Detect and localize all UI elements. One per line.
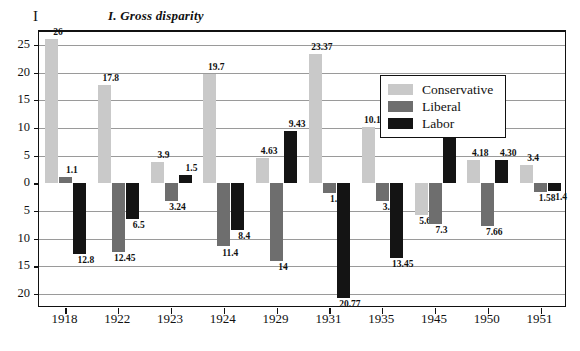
legend-swatch-liberal [388,101,413,112]
bar-liberal-1929 [270,183,283,261]
bar-value-label: 13.45 [383,259,423,269]
zero-axis-line [39,31,565,32]
y-axis-tick-label: 10 [0,230,30,245]
bar-conservative-1929 [256,158,269,184]
bar-conservative-1935 [362,127,375,183]
x-axis-label-1918: 1918 [34,311,94,327]
gridline [39,294,565,295]
bar-value-label: 4.63 [249,146,289,156]
x-axis-label-1935: 1935 [351,311,411,327]
bar-conservative-1950 [467,160,480,183]
bar-value-label: 1.8 [316,194,356,204]
legend-label-labor: Labor [422,117,454,131]
x-axis-label-1945: 1945 [404,311,464,327]
bar-conservative-1923 [151,162,164,184]
bar-conservative-1918 [45,39,58,183]
bar-labor-1950 [495,160,508,184]
x-axis-label-1923: 1923 [140,311,200,327]
plot-area: 261.112.817.812.456.53.93.241.519.711.48… [38,30,566,307]
y-axis-tick-label: 15 [0,92,30,107]
bar-liberal-1918 [59,177,72,183]
legend-item-liberal: Liberal [388,98,493,115]
bar-value-label: 14 [263,262,303,272]
y-axis-tick-mark [34,211,39,212]
y-axis-tick-label: 20 [0,64,30,79]
legend-label-liberal: Liberal [422,100,461,114]
bar-value-label: 26 [38,27,78,37]
bar-value-label: 19.7 [196,62,236,72]
bar-labor-1929 [284,131,297,183]
bar-conservative-1922 [98,85,111,184]
bar-labor-1918 [73,183,86,254]
legend-item-conservative: Conservative [388,81,493,98]
y-axis-tick-mark [34,73,39,74]
bar-liberal-1945 [429,183,442,223]
y-axis-tick-mark [34,100,39,101]
bar-labor-1951 [548,183,561,191]
bar-value-label: 6.5 [119,220,159,230]
y-axis-tick-label: 20 [0,286,30,301]
y-axis-tick-label: 5 [0,203,30,218]
x-axis-label-1924: 1924 [193,311,253,327]
bar-value-label: 7.3 [422,225,462,235]
x-axis-label-1931: 1931 [298,311,358,327]
chart-figure: I I. Gross disparity 261.112.817.812.456… [0,0,580,351]
bar-conservative-1951 [520,165,533,184]
bar-value-label: 12.45 [105,253,145,263]
bar-value-label: 17.8 [91,73,131,83]
bar-value-label: 3.9 [144,150,184,160]
bar-labor-1931 [337,183,350,298]
legend-swatch-labor [388,118,413,129]
bar-liberal-1931 [323,183,336,193]
bar-labor-1923 [179,175,192,183]
bar-value-label: 3.1 [369,202,409,212]
bar-value-label: 11.4 [210,248,250,258]
legend: Conservative Liberal Labor [380,75,506,138]
x-axis-label-1951: 1951 [510,311,570,327]
bar-value-label: 20.77 [330,299,370,309]
y-axis-tick-mark [34,183,39,184]
bar-liberal-1951 [534,183,547,192]
x-axis-label-1929: 1929 [246,311,306,327]
bar-liberal-1935 [376,183,389,200]
y-axis-tick-mark [34,128,39,129]
y-axis-label: I [33,8,38,25]
x-axis-label-1922: 1922 [87,311,147,327]
bar-labor-1924 [231,183,244,230]
bar-value-label: 1.1 [52,165,92,175]
bar-value-label: 23.37 [302,42,342,52]
y-axis-tick-mark [34,239,39,240]
y-axis-tick-label: 5 [0,147,30,162]
bar-liberal-1923 [165,183,178,201]
bar-conservative-1924 [203,74,216,183]
bar-labor-1922 [126,183,139,219]
bar-liberal-1950 [481,183,494,225]
bar-value-label: 3.24 [158,202,198,212]
bar-value-label: 7.66 [474,227,514,237]
x-axis-label-1950: 1950 [457,311,517,327]
chart-title: I. Gross disparity [108,8,204,24]
bar-value-label: 12.8 [66,255,106,265]
legend-item-labor: Labor [388,115,493,132]
y-axis-tick-label: 25 [0,36,30,51]
bar-labor-1935 [390,183,403,258]
bar-value-label: 3.4 [513,153,553,163]
y-axis-tick-label: 0 [0,175,30,190]
bar-conservative-1945 [415,183,428,214]
bar-liberal-1922 [112,183,125,252]
bar-value-label: 8.4 [224,231,264,241]
legend-swatch-conservative [388,84,413,95]
bar-value-label: 1.4 [541,192,580,202]
y-axis-tick-mark [34,156,39,157]
y-axis-tick-mark [34,266,39,267]
legend-label-conservative: Conservative [422,83,493,97]
y-axis-tick-label: 10 [0,119,30,134]
y-axis-tick-label: 15 [0,258,30,273]
bar-conservative-1931 [309,54,322,183]
y-axis-tick-mark [34,45,39,46]
y-axis-tick-mark [34,294,39,295]
